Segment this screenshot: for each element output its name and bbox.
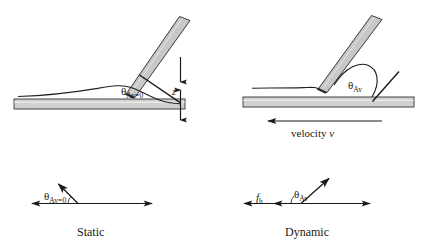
caption-dynamic: Dynamic [285,226,329,238]
contact-angle-label-static-vector: θAv=0 [44,191,66,205]
theta-subscript-static-vector: Av=0 [49,196,66,205]
substrate-bar-dynamic [243,97,414,107]
meniscus-curve-dynamic [252,87,321,89]
caption-static: Static [77,226,104,238]
contact-angle-label-static: θAv=0 [121,86,143,100]
theta-subscript-dynamic-vector: Av [299,194,308,203]
z-label-static: z [172,87,176,97]
static-panel-graphics [14,17,190,121]
cantilever-highlight-static [131,18,183,94]
dynamic-panel-graphics [243,16,414,122]
friction-subscript: h [259,197,263,206]
theta-subscript-static: Av=0 [126,91,143,100]
contact-angle-label-dynamic-vector: θAv [294,189,308,203]
velocity-text: velocity [291,127,329,139]
friction-force-label: fh [256,192,263,206]
velocity-symbol: v [329,127,334,139]
figure-vector-graphics [0,0,424,250]
figure-container: θAv=0 z θAv velocity v θAv=0 Static fh θ… [0,0,424,250]
theta-subscript-dynamic: Av [353,85,362,94]
velocity-label-dynamic: velocity v [291,128,334,139]
contact-angle-label-dynamic: θAv [348,80,362,94]
static-angle-arc [68,196,71,203]
